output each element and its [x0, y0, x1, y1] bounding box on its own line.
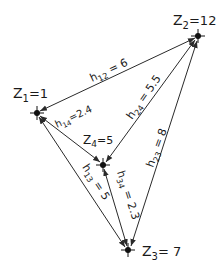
edge-label-h24: h24 = 5.5 — [124, 73, 165, 123]
node-z2 — [191, 29, 205, 43]
node-label-z3: Z3= 7 — [142, 243, 181, 262]
edge-label-h14: h14=2.4 — [53, 103, 95, 132]
edge-label-h23: h23 = 8 — [144, 127, 172, 170]
network-diagram: Z1=1 Z2=12 Z3= 7 Z4=5 h12 = 6 h14=2.4 h2… — [0, 0, 223, 280]
node-label-z1: Z1=1 — [13, 85, 48, 104]
edge-label-h34: h34 = 2.3 — [112, 169, 142, 222]
edge-label-h13: h13 = 5 — [78, 162, 113, 204]
node-z3 — [121, 243, 135, 257]
edge-h12 — [40, 38, 195, 111]
node-label-z2: Z2=12 — [173, 12, 216, 31]
node-label-z4: Z4=5 — [83, 133, 113, 149]
